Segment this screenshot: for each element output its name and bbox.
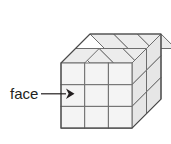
front-face-group bbox=[61, 63, 132, 128]
front-face-cell-row2-col2 bbox=[85, 85, 109, 107]
cube-stack-diagram: face bbox=[0, 0, 171, 144]
front-face-cell-row2-col3 bbox=[108, 85, 132, 107]
front-face-cell-row2-col1 bbox=[61, 85, 85, 107]
front-face-cell-row3-col2 bbox=[85, 106, 109, 128]
front-face-cell-row3-col3 bbox=[108, 106, 132, 128]
front-face-cell-row3-col1 bbox=[61, 106, 85, 128]
face-label: face bbox=[10, 85, 38, 102]
front-face-cell-row1-col2 bbox=[85, 63, 109, 85]
figure-canvas: face bbox=[0, 0, 171, 144]
front-face-cell-row1-col1 bbox=[61, 63, 85, 85]
front-face-cell-row1-col3 bbox=[108, 63, 132, 85]
